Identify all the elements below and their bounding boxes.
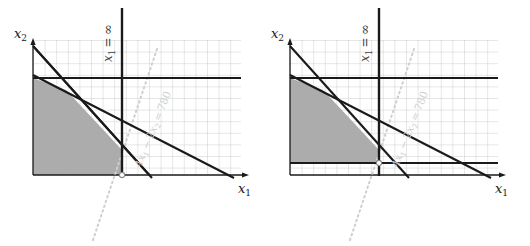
vertical-line-label: x1 = ∞ <box>100 24 117 62</box>
panel-right-plot: x2 x1 x1 = ∞ 4x1 − 2x2 = 780 <box>265 0 530 246</box>
y-axis-label: x2 <box>14 26 27 43</box>
y-axis-label: x2 <box>271 26 284 43</box>
vertical-line-label: x1 = ∞ <box>357 24 374 62</box>
panel-left: x2 x1 x1 = ∞ 4x1 − 2x2 = 780 <box>0 0 265 246</box>
panel-left-plot: x2 x1 x1 = ∞ 4x1 − 2x2 = 780 <box>0 0 265 246</box>
panel-right: x2 x1 x1 = ∞ 4x1 − 2x2 = 780 <box>265 0 530 246</box>
origin-marker <box>119 172 124 177</box>
origin-marker <box>376 160 381 165</box>
x-axis-label: x1 <box>495 181 508 198</box>
x-axis-arrow <box>499 172 506 177</box>
svg-text:x1 = ∞: x1 = ∞ <box>357 24 374 62</box>
x-axis-label: x1 <box>238 181 251 198</box>
svg-text:x1 = ∞: x1 = ∞ <box>100 24 117 62</box>
figure-canvas: x2 x1 x1 = ∞ 4x1 − 2x2 = 780 <box>0 0 530 246</box>
x-axis-arrow <box>242 172 249 177</box>
